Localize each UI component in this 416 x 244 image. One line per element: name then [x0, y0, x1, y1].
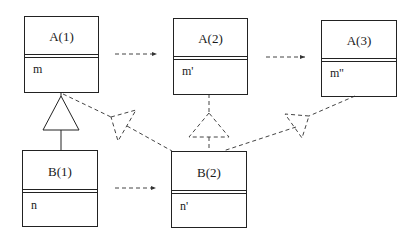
class-attribute: m' [182, 64, 194, 79]
compartment-divider [322, 58, 396, 62]
class-box-b1[interactable]: B(1) n [22, 150, 98, 227]
generalization-b1-a1 [43, 92, 79, 150]
dashed-generalization-b2-a1 [63, 94, 172, 151]
compartment-divider [172, 190, 246, 194]
dashed-generalization-b2-a2 [189, 94, 229, 151]
class-box-a2[interactable]: A(2) m' [173, 18, 248, 95]
compartment-divider [25, 54, 98, 58]
class-name: A(3) [322, 33, 396, 49]
class-name: A(2) [174, 31, 247, 47]
class-attribute: m [33, 62, 42, 77]
inheritance-triangle-icon [43, 96, 79, 130]
dashed-generalization-b2-a3 [223, 96, 355, 151]
class-name: B(1) [23, 164, 97, 180]
class-name: B(2) [172, 165, 246, 181]
compartment-divider [23, 189, 97, 193]
class-box-b2[interactable]: B(2) n' [171, 151, 247, 228]
class-attribute: n' [180, 199, 188, 214]
compartment-divider [174, 56, 247, 60]
class-box-a3[interactable]: A(3) m'' [321, 20, 397, 97]
class-box-a1[interactable]: A(1) m [24, 16, 99, 93]
class-attribute: m'' [330, 66, 344, 81]
class-attribute: n [31, 198, 37, 213]
class-name: A(1) [25, 29, 98, 45]
